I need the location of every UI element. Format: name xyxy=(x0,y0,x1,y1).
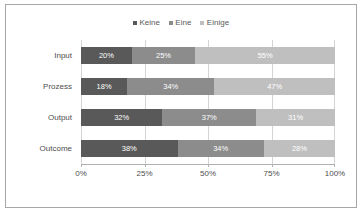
chart-legend: KeineEineEinige xyxy=(7,19,355,27)
legend-entry-label: Keine xyxy=(139,19,159,27)
axis-tick-label: 75% xyxy=(263,170,279,178)
axis-tick xyxy=(145,164,146,167)
axis-tick xyxy=(208,164,209,167)
category-axis-labels: InputProzessOutputOutcome xyxy=(7,40,77,164)
axis-tick-label: 100% xyxy=(325,170,345,178)
stacked-bar: 20%25%55% xyxy=(81,47,335,64)
bar-segment[interactable]: 55% xyxy=(195,47,335,64)
category-label-cell: Input xyxy=(7,40,77,71)
bar-row: 32%37%31% xyxy=(81,102,335,133)
legend-entry[interactable]: Eine xyxy=(169,19,192,27)
bar-series-group: 20%25%55%18%34%47%32%37%31%38%34%28% xyxy=(81,40,335,164)
bar-segment-value-label: 32% xyxy=(114,114,129,122)
legend-entry-label: Eine xyxy=(175,19,191,27)
bar-row: 20%25%55% xyxy=(81,40,335,71)
bar-segment[interactable]: 18% xyxy=(81,78,127,95)
category-label: Prozess xyxy=(43,83,72,91)
axis-tick-label: 50% xyxy=(200,170,216,178)
category-label: Input xyxy=(54,52,72,60)
bar-segment-value-label: 38% xyxy=(122,145,137,153)
axis-tick-label: 0% xyxy=(75,170,87,178)
bar-segment[interactable]: 20% xyxy=(81,47,132,64)
bar-segment-value-label: 37% xyxy=(202,114,217,122)
bar-segment[interactable]: 38% xyxy=(81,140,178,157)
plot-area: 20%25%55%18%34%47%32%37%31%38%34%28% xyxy=(81,40,335,164)
bar-segment-value-label: 47% xyxy=(267,83,282,91)
bar-segment-value-label: 34% xyxy=(163,83,178,91)
category-label-cell: Prozess xyxy=(7,71,77,102)
bar-segment-value-label: 20% xyxy=(99,52,114,60)
bar-segment-value-label: 34% xyxy=(213,145,228,153)
category-label: Output xyxy=(48,114,72,122)
legend-entry[interactable]: Keine xyxy=(133,19,160,27)
legend-entry-label: Einige xyxy=(207,19,229,27)
square-marker xyxy=(200,21,204,25)
square-marker xyxy=(169,21,173,25)
bar-segment-value-label: 25% xyxy=(156,52,171,60)
stacked-bar: 38%34%28% xyxy=(81,140,335,157)
stacked-bar: 18%34%47% xyxy=(81,78,335,95)
bar-segment[interactable]: 47% xyxy=(214,78,335,95)
bar-segment-value-label: 18% xyxy=(97,83,112,91)
axis-tick-label: 25% xyxy=(136,170,152,178)
axis-tick xyxy=(334,164,335,167)
square-marker xyxy=(133,21,137,25)
bar-segment[interactable]: 34% xyxy=(178,140,264,157)
bar-segment[interactable]: 25% xyxy=(132,47,196,64)
stacked-bar: 32%37%31% xyxy=(81,109,335,126)
bar-segment[interactable]: 34% xyxy=(127,78,214,95)
bar-segment-value-label: 55% xyxy=(258,52,273,60)
chart-frame: KeineEineEinige InputProzessOutputOutcom… xyxy=(5,4,357,208)
bar-segment[interactable]: 32% xyxy=(81,109,162,126)
legend-entry[interactable]: Einige xyxy=(200,19,229,27)
value-axis-ticks xyxy=(81,164,335,168)
value-axis-tick-labels: 0%25%50%75%100% xyxy=(81,170,335,182)
bar-segment[interactable]: 31% xyxy=(256,109,335,126)
bar-segment-value-label: 28% xyxy=(292,145,307,153)
category-label-cell: Outcome xyxy=(7,133,77,164)
axis-tick xyxy=(272,164,273,167)
bar-segment[interactable]: 37% xyxy=(162,109,256,126)
bar-row: 18%34%47% xyxy=(81,71,335,102)
bar-segment[interactable]: 28% xyxy=(264,140,335,157)
axis-tick xyxy=(81,164,82,167)
bar-segment-value-label: 31% xyxy=(288,114,303,122)
category-label-cell: Output xyxy=(7,102,77,133)
bar-row: 38%34%28% xyxy=(81,133,335,164)
category-label: Outcome xyxy=(40,145,72,153)
chart-inner-frame: KeineEineEinige InputProzessOutputOutcom… xyxy=(6,5,356,207)
